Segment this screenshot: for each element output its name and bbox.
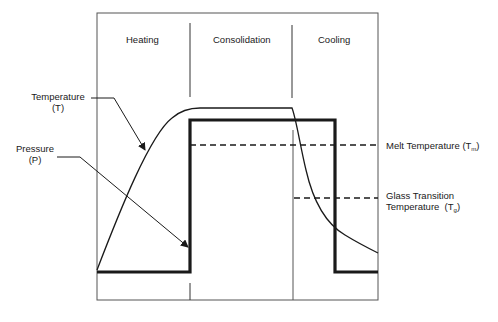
temperature-label-name: Temperature — [28, 91, 88, 102]
temperature-leader-arrow — [91, 98, 145, 150]
glass-transition-label-line1: Glass Transition — [386, 190, 460, 201]
glass-transition-label-line2: Temperature (Tg) — [386, 201, 460, 216]
phase-label-heating: Heating — [126, 34, 159, 45]
temperature-label-symbol: (T) — [28, 102, 88, 113]
glass-transition-label: Glass Transition Temperature (Tg) — [386, 190, 460, 216]
process-diagram — [0, 0, 498, 322]
pressure-leader-arrow — [57, 157, 188, 247]
temperature-label: Temperature (T) — [28, 91, 88, 113]
pressure-curve — [97, 120, 378, 272]
pressure-label-name: Pressure — [12, 143, 58, 154]
melt-temperature-label: Melt Temperature (Tm) — [386, 140, 480, 155]
pressure-label-symbol: (P) — [12, 154, 58, 165]
phase-label-cooling: Cooling — [318, 34, 350, 45]
phase-label-consolidation: Consolidation — [213, 34, 271, 45]
pressure-label: Pressure (P) — [12, 143, 58, 165]
